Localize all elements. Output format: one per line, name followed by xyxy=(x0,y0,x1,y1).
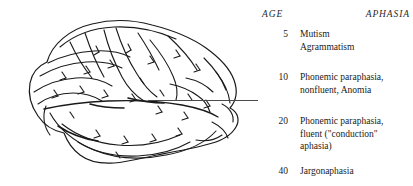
row-age-value: 10 xyxy=(255,71,288,84)
row-age-value: 5 xyxy=(255,28,288,41)
desc-line: aphasia) xyxy=(300,140,413,153)
brain-illustration xyxy=(0,0,250,186)
cerebrum-outline xyxy=(29,21,238,163)
row-aphasia-description: Phonemic paraphasia, fluent ("conduction… xyxy=(300,115,413,153)
desc-line: Phonemic paraphasia, xyxy=(300,71,413,84)
row-age-value: 20 xyxy=(255,115,288,128)
row-aphasia-description: Phonemic paraphasia, nonfluent, Anomia xyxy=(300,71,413,96)
leader-line-pointer xyxy=(148,100,258,101)
column-header-age: AGE xyxy=(262,9,283,19)
row-age-value: 40 xyxy=(255,165,288,178)
desc-line: Phonemic paraphasia, xyxy=(300,115,413,128)
desc-line: nonfluent, Anomia xyxy=(300,84,413,97)
row-aphasia-description: Jargonaphasia xyxy=(300,165,413,178)
brain-outline-group xyxy=(29,21,238,163)
column-header-aphasia: APHASIA xyxy=(366,9,410,19)
desc-line: Jargonaphasia xyxy=(300,165,413,178)
desc-line: Agrammatism xyxy=(300,41,413,54)
row-aphasia-description: Mutism Agrammatism xyxy=(300,28,413,53)
table-header-row: AGE APHASIA xyxy=(255,9,413,23)
desc-line: Mutism xyxy=(300,28,413,41)
aphasia-table: AGE APHASIA 5 Mutism Agrammatism 10 Phon… xyxy=(255,0,413,186)
brain-svg xyxy=(0,0,250,186)
desc-line: fluent ("conduction" xyxy=(300,128,413,141)
aphasia-age-figure: AGE APHASIA 5 Mutism Agrammatism 10 Phon… xyxy=(0,0,413,186)
